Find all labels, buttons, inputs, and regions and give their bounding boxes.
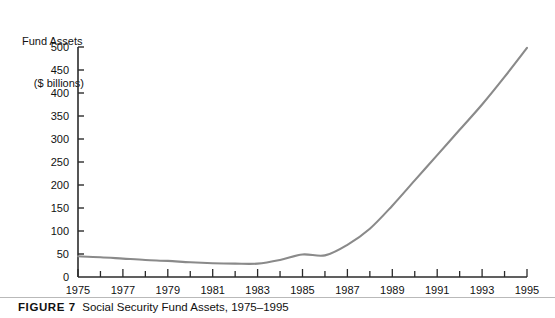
caption-divider [0, 297, 555, 298]
figure-label: FIGURE 7 [18, 301, 76, 313]
x-tick-label: 1991 [425, 284, 449, 296]
y-tick-label: 50 [57, 248, 69, 260]
figure-container: Fund Assets ($ billions) 050100150200250… [0, 0, 555, 318]
y-tick-label: 350 [51, 110, 69, 122]
x-tick-label: 1975 [66, 284, 90, 296]
x-tick-label: 1987 [335, 284, 359, 296]
x-tick-label: 1993 [470, 284, 494, 296]
x-axis: 1975197719791981198319851987198919911993… [66, 269, 539, 296]
x-tick-label: 1979 [156, 284, 180, 296]
y-tick-label: 500 [51, 41, 69, 53]
x-tick-label: 1985 [290, 284, 314, 296]
x-tick-label: 1977 [111, 284, 135, 296]
y-tick-label: 400 [51, 87, 69, 99]
chart-plot-area: 050100150200250300350400450500 197519771… [0, 0, 555, 296]
y-axis: 050100150200250300350400450500 [51, 41, 84, 283]
x-tick-label: 1983 [245, 284, 269, 296]
figure-caption-title: Social Security Fund Assets, 1975–1995 [82, 301, 289, 313]
y-tick-label: 250 [51, 156, 69, 168]
y-tick-label: 100 [51, 225, 69, 237]
x-tick-label: 1981 [200, 284, 224, 296]
y-tick-label: 200 [51, 179, 69, 191]
figure-caption: FIGURE 7 Social Security Fund Assets, 19… [18, 301, 289, 313]
x-tick-label: 1989 [380, 284, 404, 296]
y-tick-label: 300 [51, 133, 69, 145]
y-tick-label: 450 [51, 64, 69, 76]
x-tick-label: 1995 [515, 284, 539, 296]
y-tick-label: 0 [63, 271, 69, 283]
data-series-line [78, 48, 527, 264]
y-tick-label: 150 [51, 202, 69, 214]
